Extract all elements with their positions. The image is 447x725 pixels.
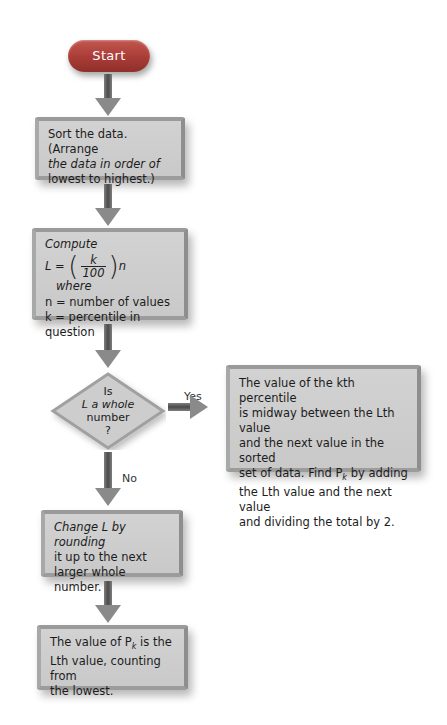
sort-line-1: Sort the data. (Arrange [48, 127, 172, 157]
result-Lth-value: The value of Pk is the Lth value, counti… [37, 625, 188, 690]
formula-where: where [56, 279, 92, 293]
start-terminal: Start [68, 40, 150, 72]
result-line-1: The value of Pk is the [50, 635, 175, 654]
process-compute-L: Compute L = (k100)n where n = number of … [32, 228, 188, 320]
decision-line-4: ? [50, 424, 166, 437]
result-line-2: Lth value, counting from [50, 654, 175, 684]
yes-line-6: and dividing the total by 2. [239, 515, 408, 530]
arrow-round-to-result [104, 581, 112, 607]
process-round-up: Change L by rounding it up to the next l… [41, 510, 183, 577]
paren-close: ) [108, 251, 118, 281]
sort-line-2: the data in order of [48, 157, 172, 172]
arrow-head-right-icon [190, 395, 208, 419]
start-label: Start [92, 48, 125, 63]
yes-line-5: the Lth value and the next value [239, 485, 408, 515]
fraction-numerator: k [81, 254, 107, 267]
compute-formula: L = (k100)n where [45, 253, 175, 294]
formula-lhs: L = [45, 259, 65, 273]
paren-open: ( [68, 251, 78, 281]
definition-n: n = number of values [45, 295, 175, 310]
yes-line-4-post: by adding [347, 466, 408, 480]
round-line-1: Change L by rounding [54, 520, 170, 550]
formula-var: n [119, 259, 126, 273]
yes-line-3: and the next value in the sorted [239, 436, 408, 466]
arrow-head-icon [95, 605, 121, 623]
decision-text: Is L a whole number ? [50, 385, 166, 437]
arrow-sort-to-compute [104, 184, 112, 210]
result-line-1-pre: The value of P [50, 635, 132, 649]
arrow-start-to-sort [104, 74, 112, 100]
compute-title: Compute [45, 237, 175, 252]
no-label: No [122, 472, 137, 485]
arrow-no [104, 452, 112, 490]
process-sort-data: Sort the data. (Arrange the data in orde… [35, 117, 185, 180]
yes-line-1: The value of the kth percentile [239, 376, 408, 406]
decision-line-2: L a whole [50, 398, 166, 411]
arrow-head-icon [95, 350, 121, 368]
result-midway-value: The value of the kth percentile is midwa… [226, 365, 421, 472]
arrow-head-icon [95, 98, 121, 116]
arrow-compute-to-decision [104, 324, 112, 352]
result-line-3: the lowest. [50, 684, 175, 699]
round-line-3: larger whole number. [54, 565, 170, 595]
decision-whole-number: Is L a whole number ? [50, 372, 166, 450]
round-line-2: it up to the next [54, 550, 170, 565]
decision-line-3: number [50, 411, 166, 424]
yes-line-4-pre: set of data. Find P [239, 466, 342, 480]
decision-line-1: Is [50, 385, 166, 398]
arrow-head-icon [95, 208, 121, 226]
fraction-denominator: 100 [81, 267, 107, 279]
result-line-1-post: is the [136, 635, 171, 649]
yes-line-4: set of data. Find Pk by adding [239, 466, 408, 485]
fraction: k100 [81, 254, 107, 279]
arrow-yes [168, 403, 192, 411]
yes-line-2: is midway between the Lth value [239, 406, 408, 436]
arrow-head-icon [95, 488, 121, 506]
